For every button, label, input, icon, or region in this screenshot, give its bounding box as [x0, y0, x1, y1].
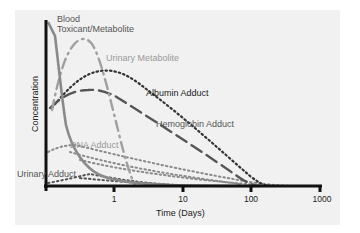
label-hemoglobin-adduct: Hemoglobin Adduct	[156, 119, 235, 129]
x-tick-label-1: 1	[112, 194, 117, 204]
blood-toxicant-curve	[48, 22, 260, 186]
x-tick-label-100: 100	[244, 194, 258, 204]
x-tick-label-10: 10	[178, 194, 188, 204]
x-tick-label-1000: 1000	[313, 194, 332, 204]
x-axis-title: Time (Days)	[156, 208, 205, 218]
label-urinary-adduct: Urinary Adduct	[17, 169, 77, 179]
chart: 1 10 100 1000 Time (Days) Concentration …	[0, 0, 360, 233]
label-albumin-adduct: Albumin Adduct	[146, 88, 209, 98]
label-blood-line1: Blood	[57, 14, 80, 24]
label-urinary-metabolite: Urinary Metabolite	[106, 53, 179, 63]
y-axis-title: Concentration	[30, 76, 40, 132]
label-dna-adduct: DNA Adduct	[70, 140, 119, 150]
label-blood-line2: Toxicant/Metabolite	[57, 24, 134, 34]
